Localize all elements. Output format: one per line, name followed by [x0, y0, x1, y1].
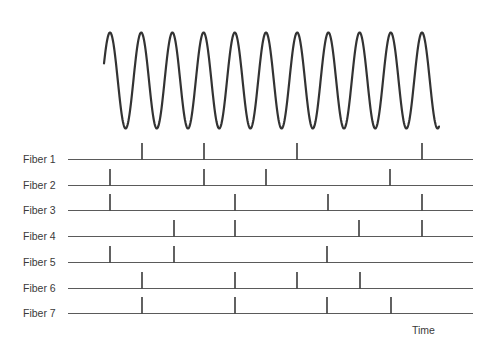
fiber-label: Fiber 1 [23, 153, 56, 165]
fiber-label: Fiber 3 [23, 204, 56, 216]
fiber-label: Fiber 6 [23, 282, 56, 294]
fiber-row-2 [68, 169, 473, 186]
fiber-row-7 [68, 297, 473, 314]
fiber-row-5 [68, 246, 473, 263]
fiber-label: Fiber 7 [23, 307, 56, 319]
fiber-row-3 [68, 194, 473, 211]
fiber-rasters [68, 143, 473, 314]
fiber-row-6 [68, 272, 473, 289]
fiber-label: Fiber 4 [23, 230, 56, 242]
fiber-label: Fiber 5 [23, 256, 56, 268]
time-axis-label: Time [412, 324, 435, 336]
fiber-label: Fiber 2 [23, 179, 56, 191]
phase-locking-diagram: Fiber 1 Fiber 2 Fiber 3 Fiber 4 Fiber 5 … [0, 0, 494, 349]
fiber-row-4 [68, 220, 473, 237]
plot-canvas [0, 0, 494, 349]
stimulus-sine-wave [104, 33, 439, 129]
fiber-row-1 [68, 143, 473, 160]
